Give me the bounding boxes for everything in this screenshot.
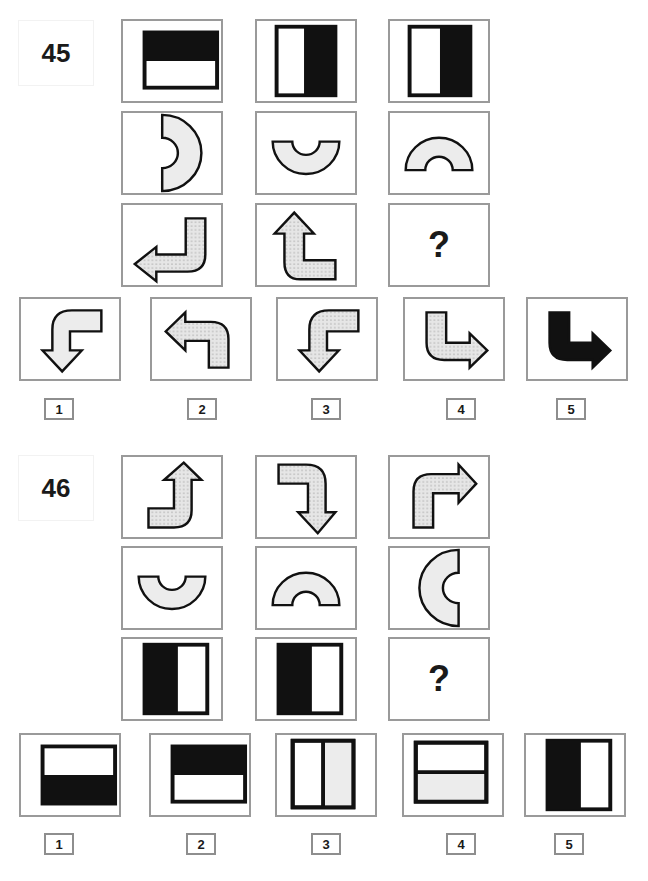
answer-option-5[interactable] (524, 733, 626, 817)
arrow-down-turn-left-dotted-figure (152, 299, 250, 379)
arrow-down-turn-right-dotted-figure (390, 457, 488, 537)
rect-right-black-figure (257, 21, 355, 101)
answer-option-5[interactable] (526, 297, 628, 381)
rect-right-black-wide-figure (390, 21, 488, 101)
grid-cell (121, 111, 223, 195)
grid-cell (255, 637, 357, 721)
grid-cell (388, 455, 490, 539)
answer-option-4[interactable] (402, 733, 504, 817)
answer-option-1[interactable] (19, 733, 121, 817)
rect-left-black-figure (123, 639, 221, 719)
puzzle-number-45: 45 (18, 20, 94, 86)
arrow-right-turn-down-light-figure (21, 299, 119, 379)
grid-cell (121, 455, 223, 539)
grid-cell (255, 546, 357, 630)
option-label-4[interactable]: 4 (446, 398, 476, 420)
rect-bottom-black-figure (21, 735, 119, 815)
missing-cell: ? (388, 637, 490, 721)
rect-top-black-figure (151, 735, 249, 815)
grid-cell (121, 637, 223, 721)
arrow-up-turn-left-dotted-figure (123, 205, 221, 285)
grid-cell (255, 19, 357, 103)
option-label-3[interactable]: 3 (311, 833, 341, 855)
arc-right-figure (123, 113, 221, 193)
arc-top-figure (257, 548, 355, 628)
arrow-up-turn-right-dotted-figure (405, 299, 503, 379)
puzzle-number-46: 46 (18, 455, 94, 521)
option-label-5[interactable]: 5 (556, 398, 586, 420)
answer-option-2[interactable] (150, 297, 252, 381)
option-label-4[interactable]: 4 (446, 833, 476, 855)
answer-option-1[interactable] (19, 297, 121, 381)
arrow-left-turn-up-dotted-figure (123, 457, 221, 537)
option-label-2[interactable]: 2 (187, 398, 217, 420)
option-label-5[interactable]: 5 (554, 833, 584, 855)
arrow-up-turn-right-black-figure (528, 299, 626, 379)
grid-cell (121, 203, 223, 287)
arc-top-figure (390, 113, 488, 193)
answer-option-2[interactable] (149, 733, 251, 817)
missing-cell: ? (388, 203, 490, 287)
arrow-right-turn-down-dotted-figure (278, 299, 376, 379)
arrow-right-turn-up-dotted-figure (257, 205, 355, 285)
grid-cell (388, 19, 490, 103)
answer-option-4[interactable] (403, 297, 505, 381)
rect-split-vertical-light-figure (277, 735, 375, 815)
rect-split-horizontal-light-figure (404, 735, 502, 815)
rect-left-black-figure (526, 735, 624, 815)
arc-bottom-figure (123, 548, 221, 628)
answer-option-3[interactable] (275, 733, 377, 817)
option-label-1[interactable]: 1 (44, 398, 74, 420)
arc-left-figure (390, 548, 488, 628)
grid-cell (255, 455, 357, 539)
arrow-left-turn-down-dotted-figure (257, 457, 355, 537)
grid-cell (388, 111, 490, 195)
arc-bottom-figure (257, 113, 355, 193)
rect-left-black-figure (257, 639, 355, 719)
grid-cell (388, 546, 490, 630)
option-label-3[interactable]: 3 (311, 398, 341, 420)
answer-option-3[interactable] (276, 297, 378, 381)
question-mark: ? (390, 205, 488, 285)
option-label-1[interactable]: 1 (44, 833, 74, 855)
grid-cell (255, 203, 357, 287)
grid-cell (255, 111, 357, 195)
rect-top-black-figure (123, 21, 221, 101)
grid-cell (121, 19, 223, 103)
option-label-2[interactable]: 2 (186, 833, 216, 855)
grid-cell (121, 546, 223, 630)
question-mark: ? (390, 639, 488, 719)
